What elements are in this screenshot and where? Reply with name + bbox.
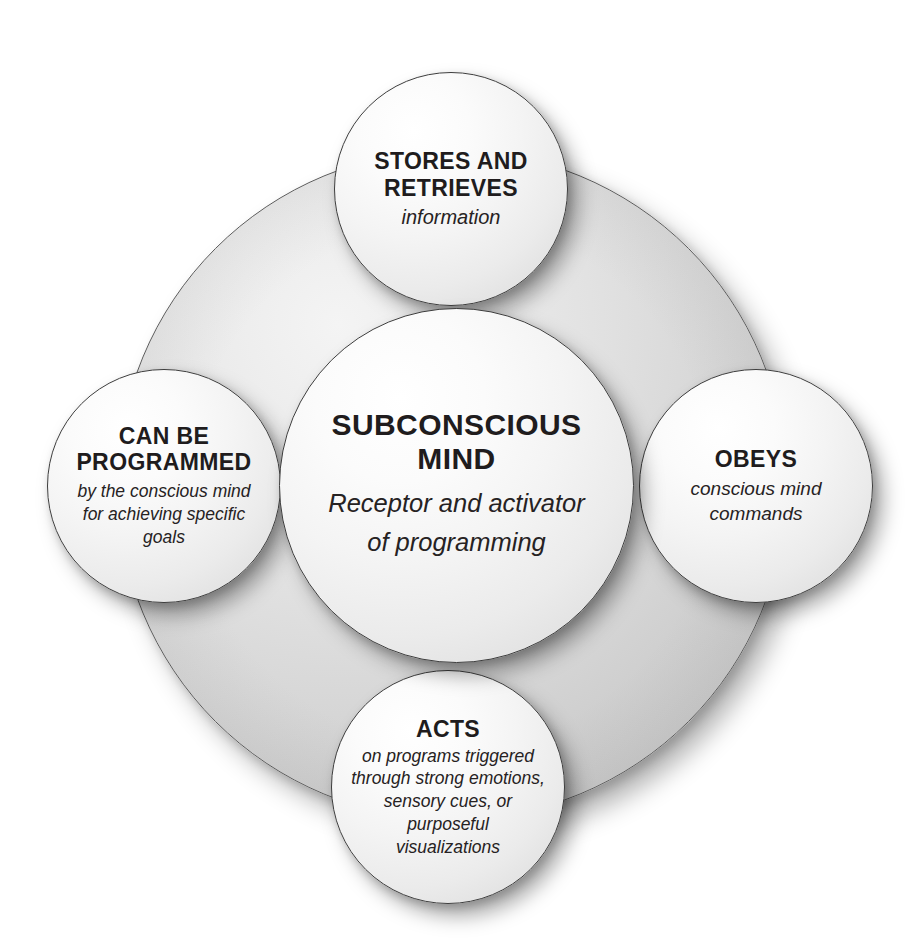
- subtitle-line: Receptor and activator: [328, 484, 585, 524]
- title-line: ACTS: [416, 716, 480, 742]
- node-title: CAN BE PROGRAMMED: [76, 423, 251, 475]
- subtitle-line: on programs triggered: [351, 745, 545, 768]
- node-subtitle: conscious mind commands: [691, 477, 822, 526]
- title-line: OBEYS: [715, 446, 798, 472]
- subtitle-line: of programming: [328, 523, 585, 563]
- node-subconscious-mind[interactable]: SUBCONSCIOUS MIND Receptor and activator…: [279, 308, 634, 663]
- node-acts[interactable]: ACTS on programs triggered through stron…: [331, 670, 565, 904]
- node-subtitle: information: [402, 206, 501, 230]
- subtitle-line: through strong emotions,: [351, 767, 545, 790]
- diagram-canvas: STORES AND RETRIEVES information CAN BE …: [0, 0, 906, 948]
- title-line: MIND: [332, 442, 582, 476]
- subtitle-line: commands: [691, 502, 822, 526]
- node-title: STORES AND RETRIEVES: [374, 148, 528, 200]
- node-title: ACTS: [416, 716, 480, 742]
- node-subtitle: Receptor and activator of programming: [328, 484, 585, 563]
- subtitle-line: information: [402, 206, 501, 230]
- node-stores-and-retrieves[interactable]: STORES AND RETRIEVES information: [334, 72, 568, 306]
- node-subtitle: on programs triggered through strong emo…: [351, 745, 545, 859]
- title-line: STORES AND: [374, 148, 528, 174]
- subtitle-line: conscious mind: [691, 477, 822, 501]
- subtitle-line: purposeful: [351, 813, 545, 836]
- subtitle-line: by the conscious mind: [77, 480, 250, 503]
- node-subtitle: by the conscious mind for achieving spec…: [77, 480, 250, 549]
- title-line: SUBCONSCIOUS: [332, 408, 582, 442]
- node-can-be-programmed[interactable]: CAN BE PROGRAMMED by the conscious mind …: [47, 369, 281, 603]
- title-line: CAN BE: [76, 423, 251, 449]
- title-line: PROGRAMMED: [76, 449, 251, 475]
- subtitle-line: for achieving specific: [77, 503, 250, 526]
- node-title: OBEYS: [715, 446, 798, 472]
- subtitle-line: visualizations: [351, 836, 545, 859]
- title-line: RETRIEVES: [374, 175, 528, 201]
- subtitle-line: sensory cues, or: [351, 790, 545, 813]
- node-obeys[interactable]: OBEYS conscious mind commands: [639, 369, 873, 603]
- node-title: SUBCONSCIOUS MIND: [332, 408, 582, 476]
- subtitle-line: goals: [77, 526, 250, 549]
